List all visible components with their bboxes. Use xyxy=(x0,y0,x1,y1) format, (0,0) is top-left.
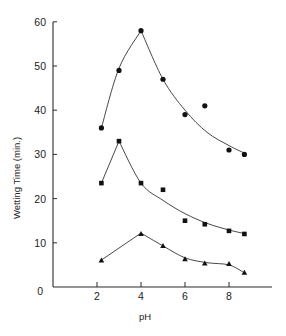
x-axis: 2468 xyxy=(53,282,272,302)
x-tick-label: 4 xyxy=(138,290,144,302)
x-tick-label: 2 xyxy=(94,290,100,302)
triangle-marker xyxy=(138,231,144,236)
square-marker xyxy=(99,181,104,186)
fit-curve-falling xyxy=(119,141,244,233)
fit-curve-rising xyxy=(101,233,141,260)
triangle-marker xyxy=(226,261,232,266)
circle-marker xyxy=(160,77,165,82)
circle-marker xyxy=(138,28,143,33)
fit-curve-falling xyxy=(141,233,244,273)
square-marker xyxy=(161,187,166,192)
wetting-time-chart: 0102030405060 2468 Wetting Time (min.) p… xyxy=(0,0,286,336)
plot-area: 0102030405060 2468 xyxy=(34,16,272,302)
fit-curve-rising xyxy=(101,31,141,128)
circle-marker xyxy=(242,152,247,157)
fit-curve-rising xyxy=(101,141,119,183)
x-tick-label: 6 xyxy=(182,290,188,302)
y-tick-label: 10 xyxy=(34,237,46,249)
circle-marker xyxy=(116,68,121,73)
x-tick-label: 8 xyxy=(226,290,232,302)
square-marker xyxy=(242,232,247,237)
triangle-marker xyxy=(160,243,166,248)
y-axis-title: Wetting Time (min.) xyxy=(11,137,22,219)
y-tick-label: 30 xyxy=(34,148,46,160)
y-tick-label: 50 xyxy=(34,60,46,72)
triangle-marker xyxy=(242,270,248,275)
square-marker xyxy=(117,139,122,144)
square-marker xyxy=(203,222,208,227)
circle-marker xyxy=(99,125,104,130)
y-axis: 0102030405060 xyxy=(34,16,57,297)
circle-marker xyxy=(182,112,187,117)
fit-curve-falling xyxy=(141,31,244,153)
square-marker xyxy=(183,218,188,223)
y-tick-label: 0 xyxy=(37,285,43,297)
circle-marker xyxy=(202,103,207,108)
y-tick-label: 60 xyxy=(34,16,46,28)
square-marker xyxy=(139,181,144,186)
square-marker xyxy=(227,229,232,234)
y-tick-label: 40 xyxy=(34,104,46,116)
y-tick-label: 20 xyxy=(34,193,46,205)
x-axis-title: pH xyxy=(139,311,151,322)
data-markers xyxy=(99,28,248,275)
circle-marker xyxy=(226,147,231,152)
fitted-curves xyxy=(101,31,244,273)
